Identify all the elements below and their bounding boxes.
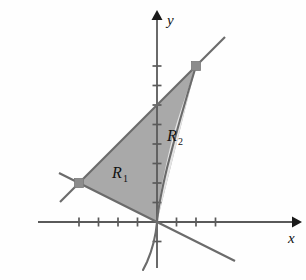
y-axis-arrowhead	[152, 10, 163, 20]
math-figure: y x R 1 R 2	[0, 0, 306, 280]
region-label-r1-subscript: 1	[123, 173, 128, 184]
x-axis-label: x	[287, 230, 295, 246]
region-label-r1-text: R	[111, 164, 122, 181]
figure-canvas: y x R 1 R 2	[0, 0, 306, 280]
intersection-point-left	[75, 179, 84, 188]
region-label-r2-subscript: 2	[178, 136, 183, 147]
region-label-r2-text: R	[166, 127, 177, 144]
x-axis-arrowhead	[292, 217, 302, 228]
y-axis-label: y	[165, 12, 174, 28]
intersection-point-upper	[192, 62, 201, 71]
